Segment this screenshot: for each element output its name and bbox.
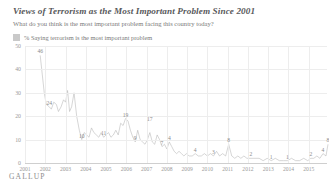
gridline-vertical: [248, 46, 249, 163]
x-axis: 2001200220032004200520062007200820092010…: [25, 166, 327, 178]
gridline-vertical: [126, 46, 127, 163]
data-point-label: 10: [79, 133, 85, 139]
gridline-vertical: [66, 46, 67, 163]
x-axis-tick: 2007: [141, 166, 152, 172]
data-point-label: 4: [322, 147, 325, 153]
gridline-vertical: [187, 46, 188, 163]
plot-wrapper: 50403020100 462410111917947438211248 200…: [7, 46, 329, 176]
plot-area: 462410111917947438211248: [25, 46, 327, 164]
chart-legend: % Saying terrorism is the most important…: [13, 33, 325, 42]
y-axis-tick: 30: [15, 90, 21, 96]
gallup-brand: GALLUP: [9, 172, 46, 181]
gridline-vertical: [228, 46, 229, 163]
data-point-label: 9: [134, 135, 137, 141]
data-point-label: 46: [37, 48, 43, 54]
x-axis-tick: 2015: [303, 166, 314, 172]
data-point-label: 2: [309, 151, 312, 157]
data-point-label: 4: [168, 135, 171, 141]
chart-subtitle: What do you think is the most important …: [13, 19, 325, 28]
x-axis-tick: 2013: [263, 166, 274, 172]
gridline-horizontal: [25, 46, 327, 47]
y-axis-tick: 40: [15, 66, 21, 72]
y-axis-tick: 10: [15, 137, 21, 143]
data-point-label: 2: [250, 151, 253, 157]
gridline-horizontal: [25, 93, 327, 94]
x-axis-tick: 2005: [100, 166, 111, 172]
gridline-horizontal: [25, 69, 327, 70]
x-axis-tick: 2012: [242, 166, 253, 172]
data-point-label: 3: [212, 149, 215, 155]
data-point-label: 8: [227, 137, 230, 143]
gridline-vertical: [288, 46, 289, 163]
x-axis-tick: 2003: [60, 166, 71, 172]
x-axis-tick: 2009: [182, 166, 193, 172]
gridline-vertical: [207, 46, 208, 163]
y-axis-tick: 50: [15, 43, 21, 49]
data-point-label: 17: [147, 116, 153, 122]
series-line: [25, 46, 327, 163]
gridline-vertical: [147, 46, 148, 163]
gridline-horizontal: [25, 116, 327, 117]
x-axis-tick: 2004: [80, 166, 91, 172]
gridline-vertical: [86, 46, 87, 163]
y-axis-tick: 20: [15, 113, 21, 119]
gridline-vertical: [268, 46, 269, 163]
gridline-vertical: [309, 46, 310, 163]
gridline-vertical: [25, 46, 26, 163]
x-axis-tick: 2014: [283, 166, 294, 172]
legend-swatch-icon: [13, 34, 20, 41]
gridline-vertical: [167, 46, 168, 163]
x-axis-tick: 2011: [222, 166, 233, 172]
legend-label: % Saying terrorism is the most important…: [24, 34, 152, 41]
series-path: [40, 55, 328, 160]
gridline-vertical: [106, 46, 107, 163]
y-axis: 50403020100: [7, 46, 23, 164]
data-point-label: 4: [194, 147, 197, 153]
data-point-label: 11: [101, 130, 106, 136]
data-point-label: 24: [47, 100, 53, 106]
x-axis-tick: 2008: [161, 166, 172, 172]
data-point-label: 1: [270, 154, 273, 160]
x-axis-tick: 2006: [121, 166, 132, 172]
chart-title: Views of Terrorism as the Most Important…: [13, 6, 325, 17]
x-axis-tick: 2010: [202, 166, 213, 172]
data-point-label: 1: [286, 154, 289, 160]
data-point-label: 19: [123, 112, 129, 118]
data-point-label: 7: [161, 140, 164, 146]
gridline-horizontal: [25, 140, 327, 141]
chart-figure: Views of Terrorism as the Most Important…: [0, 0, 329, 185]
